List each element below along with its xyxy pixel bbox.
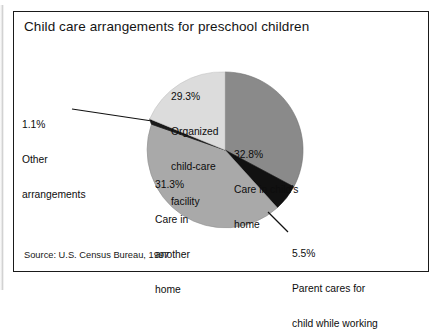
slice-desc-other-line2: arrangements <box>22 189 86 201</box>
slice-desc-another-home-line1: Care in <box>155 214 190 226</box>
slice-pct-parent-working: 5.5% <box>292 248 378 260</box>
source-note: Source: U.S. Census Bureau, 1997 <box>24 250 169 260</box>
slice-label-childs-home: 32.8% Care in child’s home <box>234 126 298 242</box>
slice-desc-parent-working-line2: child while working <box>292 318 378 330</box>
slice-desc-childs-home-line1: Care in child’s <box>234 184 298 196</box>
slice-desc-organized-line1: Organized <box>171 126 219 138</box>
slice-desc-another-home-line3: home <box>155 284 190 296</box>
slice-pct-another-home: 31.3% <box>155 179 190 191</box>
slice-pct-other-arrangements: 1.1% <box>22 119 86 131</box>
slice-desc-other-line1: Other <box>22 154 86 166</box>
slice-label-another-home: 31.3% Care in another home <box>155 156 190 307</box>
slice-desc-parent-working-line1: Parent cares for <box>292 283 378 295</box>
slice-pct-organized-facility: 29.3% <box>171 91 219 103</box>
slice-label-other-arrangements: 1.1% Other arrangements <box>22 96 86 212</box>
slice-desc-childs-home-line2: home <box>234 219 298 231</box>
slice-label-parent-working: 5.5% Parent cares for child while workin… <box>292 225 378 333</box>
slice-pct-childs-home: 32.8% <box>234 149 298 161</box>
